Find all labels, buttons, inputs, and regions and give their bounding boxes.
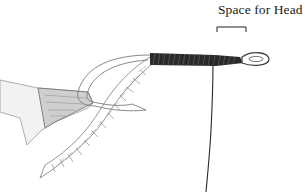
- hook-drawing: [0, 0, 305, 195]
- head-space-bracket: [217, 27, 246, 32]
- illustration: Space for Head: [0, 0, 305, 195]
- hook-eye: [242, 53, 269, 66]
- thread-wraps: [150, 53, 243, 66]
- space-for-head-label: Space for Head: [218, 2, 303, 18]
- hanging-thread: [206, 62, 213, 192]
